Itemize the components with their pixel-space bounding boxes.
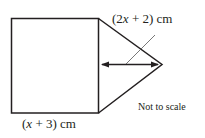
not-to-scale-note: Not to scale	[138, 102, 186, 112]
height-label: (2x + 2) cm	[112, 12, 172, 25]
triangle	[99, 19, 163, 114]
base-label: (x + 3) cm	[22, 117, 76, 130]
leader-line	[126, 35, 155, 64]
square	[12, 19, 99, 114]
